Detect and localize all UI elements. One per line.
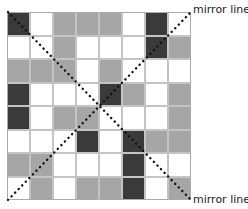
grid-cell-gray-r1c7 — [168, 36, 191, 60]
grid-cell-dark-r3c0 — [7, 83, 30, 107]
grid-cell-dark-r0c0 — [7, 12, 30, 36]
grid-cell-gray-r3c7 — [168, 83, 191, 107]
grid-cell-white-r7c2 — [53, 177, 76, 201]
grid-cell-gray-r4c7 — [168, 106, 191, 130]
grid-cell-white-r0c5 — [122, 12, 145, 36]
mirror-line-label-bottom: mirror line — [193, 193, 248, 206]
grid-cell-white-r4c5 — [122, 106, 145, 130]
grid-cell-dark-r7c5 — [122, 177, 145, 201]
grid-cell-gray-r2c0 — [7, 59, 30, 83]
grid-cell-white-r1c1 — [30, 36, 53, 60]
grid-cell-gray-r4c3 — [76, 106, 99, 130]
grid-cell-white-r3c1 — [30, 83, 53, 107]
grid-cell-gray-r2c1 — [30, 59, 53, 83]
grid-cell-gray-r1c2 — [53, 36, 76, 60]
grid-cell-gray-r0c4 — [99, 12, 122, 36]
grid-cell-white-r3c3 — [76, 83, 99, 107]
grid-cell-gray-r3c5 — [122, 83, 145, 107]
grid-cell-gray-r6c0 — [7, 153, 30, 177]
grid-cell-white-r1c5 — [122, 36, 145, 60]
grid-cell-dark-r4c0 — [7, 106, 30, 130]
grid-cell-white-r6c7 — [168, 153, 191, 177]
grid-cell-white-r5c2 — [53, 130, 76, 154]
grid-cell-white-r1c0 — [7, 36, 30, 60]
grid-cell-white-r1c3 — [76, 36, 99, 60]
grid-cell-white-r6c4 — [99, 153, 122, 177]
grid-cell-white-r2c5 — [122, 59, 145, 83]
grid-cell-white-r4c6 — [145, 106, 168, 130]
grid-cell-white-r0c1 — [30, 12, 53, 36]
grid-cell-white-r2c6 — [145, 59, 168, 83]
grid-cell-white-r6c3 — [76, 153, 99, 177]
grid-cell-gray-r2c4 — [99, 59, 122, 83]
grid-cell-gray-r5c7 — [168, 130, 191, 154]
grid-cell-gray-r0c2 — [53, 12, 76, 36]
grid-cell-white-r1c4 — [99, 36, 122, 60]
grid-cell-white-r3c6 — [145, 83, 168, 107]
grid-cell-dark-r5c3 — [76, 130, 99, 154]
grid-cell-white-r4c1 — [30, 106, 53, 130]
grid-cell-white-r7c6 — [145, 177, 168, 201]
grid-cell-dark-r0c6 — [145, 12, 168, 36]
grid-cell-gray-r7c7 — [168, 177, 191, 201]
grid-cell-gray-r7c1 — [30, 177, 53, 201]
grid-cell-gray-r4c2 — [53, 106, 76, 130]
grid-cell-white-r5c0 — [7, 130, 30, 154]
grid-cell-gray-r7c4 — [99, 177, 122, 201]
grid-cell-white-r4c4 — [99, 106, 122, 130]
grid-cell-gray-r5c6 — [145, 130, 168, 154]
grid-cell-white-r6c2 — [53, 153, 76, 177]
mirror-line-label-top: mirror line — [193, 3, 248, 16]
pattern-grid — [7, 12, 191, 200]
grid-cell-gray-r7c3 — [76, 177, 99, 201]
grid-cell-gray-r2c2 — [53, 59, 76, 83]
grid-cell-white-r5c1 — [30, 130, 53, 154]
grid-cell-white-r0c7 — [168, 12, 191, 36]
grid-cell-dark-r5c5 — [122, 130, 145, 154]
grid-cell-white-r2c7 — [168, 59, 191, 83]
grid-cell-dark-r6c5 — [122, 153, 145, 177]
grid-cell-white-r2c3 — [76, 59, 99, 83]
grid-cell-white-r5c4 — [99, 130, 122, 154]
grid-cell-white-r6c6 — [145, 153, 168, 177]
grid-cell-dark-r3c4 — [99, 83, 122, 107]
grid-cell-gray-r0c3 — [76, 12, 99, 36]
grid-cell-gray-r6c1 — [30, 153, 53, 177]
grid-cell-white-r3c2 — [53, 83, 76, 107]
grid-cell-dark-r1c6 — [145, 36, 168, 60]
grid-cell-white-r7c0 — [7, 177, 30, 201]
